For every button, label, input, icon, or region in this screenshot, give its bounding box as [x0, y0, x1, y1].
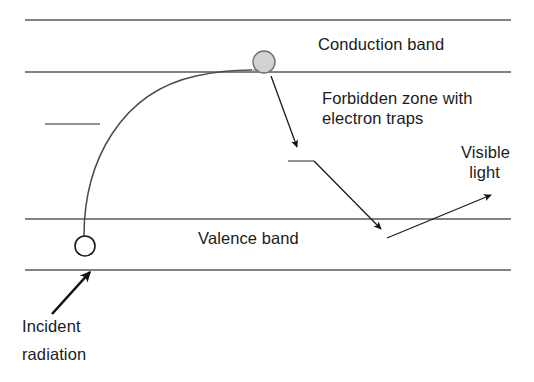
electron-particle	[253, 51, 275, 73]
visible-light-label-line2: light	[400, 162, 500, 182]
incident-radiation-label-line1: Incident	[22, 316, 81, 336]
incident-radiation-arrow	[52, 272, 90, 314]
electron-to-trap-arrow	[271, 76, 297, 147]
forbidden-zone-label-line2: electron traps	[322, 108, 423, 128]
incident-radiation-label-line2: radiation	[22, 344, 86, 364]
valence-band-label: Valence band	[198, 228, 299, 248]
hole-particle	[75, 236, 95, 256]
visible-light-arrow	[387, 195, 491, 238]
visible-light-label-line1: Visible	[400, 142, 510, 162]
excitation-trajectory-arrow	[84, 70, 252, 236]
forbidden-zone-label-line1: Forbidden zone with	[322, 88, 473, 108]
band-diagram-figure: Conduction band Forbidden zone with elec…	[0, 0, 534, 382]
conduction-band-label: Conduction band	[318, 34, 444, 54]
